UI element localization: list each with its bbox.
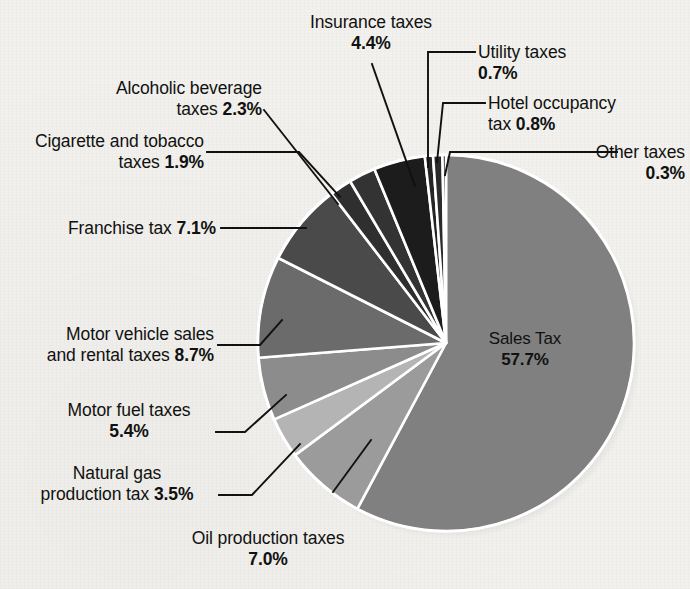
callout-sales-tax-line1: Sales Tax	[455, 328, 595, 349]
callout-natural-gas-line1: Natural gas	[18, 463, 216, 484]
pie-chart: Insurance taxes 4.4% Utility taxes 0.7% …	[0, 0, 690, 589]
callout-hotel: Hotel occupancy tax 0.8%	[488, 93, 688, 135]
callout-hotel-line1: Hotel occupancy	[488, 93, 688, 114]
callout-cigarette-value: taxes 1.9%	[8, 152, 204, 173]
callout-utility-line1: Utility taxes	[478, 42, 678, 63]
callout-franchise-line1: Franchise tax 7.1%	[18, 218, 216, 239]
callout-motor-vehicle-line1: Motor vehicle sales	[8, 324, 214, 345]
callout-cigarette: Cigarette and tobacco taxes 1.9%	[8, 131, 204, 173]
callout-oil-line1: Oil production taxes	[158, 528, 378, 549]
callout-other: Other taxes 0.3%	[470, 142, 685, 184]
callout-motor-fuel: Motor fuel taxes 5.4%	[46, 400, 212, 442]
callout-alcoholic-value: taxes 2.3%	[70, 99, 262, 120]
callout-insurance-value: 4.4%	[276, 33, 466, 54]
callout-motor-fuel-line1: Motor fuel taxes	[46, 400, 212, 421]
callout-utility-value: 0.7%	[478, 63, 678, 84]
callout-sales-tax: Sales Tax 57.7%	[455, 328, 595, 370]
callout-other-value: 0.3%	[470, 163, 685, 184]
callout-cigarette-line1: Cigarette and tobacco	[8, 131, 204, 152]
callout-sales-tax-value: 57.7%	[455, 349, 595, 370]
leader-line-cigarette	[207, 152, 340, 197]
callout-natural-gas-value: production tax 3.5%	[18, 484, 216, 505]
callout-motor-vehicle: Motor vehicle sales and rental taxes 8.7…	[8, 324, 214, 366]
callout-alcoholic: Alcoholic beverage taxes 2.3%	[70, 78, 262, 120]
callout-utility: Utility taxes 0.7%	[478, 42, 678, 84]
leader-line-alcoholic	[264, 110, 338, 204]
callout-insurance: Insurance taxes 4.4%	[276, 12, 466, 54]
callout-motor-fuel-value: 5.4%	[46, 421, 212, 442]
callout-alcoholic-line1: Alcoholic beverage	[70, 78, 262, 99]
leader-line-utility	[428, 52, 475, 167]
callout-oil: Oil production taxes 7.0%	[158, 528, 378, 570]
callout-oil-value: 7.0%	[158, 549, 378, 570]
callout-insurance-line1: Insurance taxes	[276, 12, 466, 33]
callout-motor-vehicle-value: and rental taxes 8.7%	[8, 345, 214, 366]
callout-franchise: Franchise tax 7.1%	[18, 218, 216, 239]
callout-other-line1: Other taxes	[470, 142, 685, 163]
callout-hotel-value: tax 0.8%	[488, 114, 688, 135]
leader-line-natural-gas	[219, 444, 300, 495]
callout-natural-gas: Natural gas production tax 3.5%	[18, 463, 216, 505]
